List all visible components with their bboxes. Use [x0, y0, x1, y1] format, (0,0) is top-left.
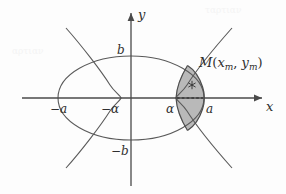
- tick-label-negative-a: −a: [50, 103, 67, 115]
- tick-label-alpha: α: [166, 103, 174, 115]
- x-axis-label: x: [266, 100, 273, 113]
- tick-label-a: a: [206, 103, 213, 115]
- point-label-name: M: [199, 55, 212, 70]
- point-label-y-var: y: [242, 55, 249, 70]
- point-label-x-subscript: m: [225, 62, 234, 72]
- tick-label-negative-b: −b: [111, 145, 129, 157]
- point-label-m: M(xm, ym): [199, 56, 263, 72]
- figure-canvas: [0, 0, 286, 194]
- point-label-close-paren: ): [257, 55, 262, 70]
- math-figure: ταρτιαν αρτιαν x y −a −α α a b −b M(xm, …: [0, 0, 286, 194]
- tick-label-b: b: [117, 44, 125, 56]
- y-axis-arrowhead: [128, 13, 135, 21]
- point-label-x-var: x: [217, 55, 224, 70]
- x-axis-arrowhead: [254, 95, 262, 102]
- tick-label-negative-alpha: −α: [101, 103, 119, 115]
- y-axis-label: y: [138, 8, 145, 21]
- point-label-comma: ,: [233, 55, 241, 70]
